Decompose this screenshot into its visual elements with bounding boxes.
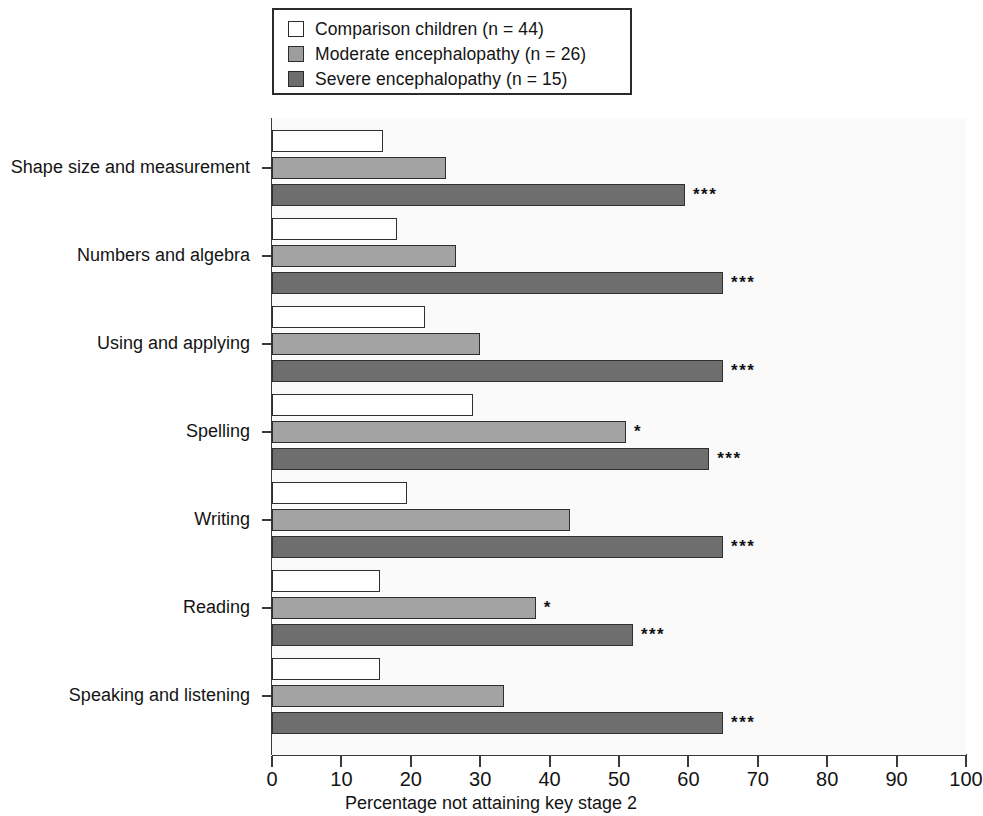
legend-swatch-comparison-icon bbox=[288, 21, 304, 37]
legend-label-comparison: Comparison children (n = 44) bbox=[315, 19, 544, 40]
bar bbox=[272, 157, 446, 179]
bar bbox=[272, 509, 570, 531]
y-axis-label: Speaking and listening bbox=[0, 685, 250, 706]
bar bbox=[272, 536, 723, 558]
x-axis-tick-label: 40 bbox=[538, 768, 560, 791]
significance-marker: *** bbox=[731, 360, 755, 382]
x-axis-title: Percentage not attaining key stage 2 bbox=[0, 793, 982, 814]
bar-group: *** bbox=[272, 306, 966, 382]
x-axis-tick-label: 80 bbox=[816, 768, 838, 791]
bar bbox=[272, 245, 456, 267]
x-axis-tick bbox=[410, 756, 412, 767]
significance-marker: *** bbox=[731, 272, 755, 294]
y-axis-label: Numbers and algebra bbox=[0, 245, 250, 266]
bar-group: *** bbox=[272, 658, 966, 734]
legend-swatch-moderate-icon bbox=[288, 46, 304, 62]
bar-group: *** bbox=[272, 482, 966, 558]
bar bbox=[272, 624, 633, 646]
bar-group: **** bbox=[272, 570, 966, 646]
x-axis-tick bbox=[687, 756, 689, 767]
y-axis-tick bbox=[262, 167, 272, 169]
x-axis-tick bbox=[757, 756, 759, 767]
x-axis-tick bbox=[826, 756, 828, 767]
legend-label-moderate: Moderate encephalopathy (n = 26) bbox=[315, 44, 586, 65]
x-axis-tick bbox=[965, 756, 967, 767]
bar bbox=[272, 272, 723, 294]
legend-item-comparison: Comparison children (n = 44) bbox=[288, 17, 630, 41]
y-axis-tick bbox=[262, 607, 272, 609]
x-axis-tick bbox=[549, 756, 551, 767]
y-axis-label: Shape size and measurement bbox=[0, 157, 250, 178]
significance-marker: *** bbox=[717, 448, 741, 470]
x-axis-tick-label: 0 bbox=[266, 768, 277, 791]
bar bbox=[272, 130, 383, 152]
bar bbox=[272, 570, 380, 592]
bar-group: *** bbox=[272, 130, 966, 206]
bar bbox=[272, 218, 397, 240]
significance-marker: *** bbox=[731, 536, 755, 558]
y-axis-tick bbox=[262, 255, 272, 257]
y-axis-tick bbox=[262, 519, 272, 521]
x-axis-tick-label: 50 bbox=[608, 768, 630, 791]
bar bbox=[272, 360, 723, 382]
significance-marker: *** bbox=[641, 624, 665, 646]
bar bbox=[272, 597, 536, 619]
bar bbox=[272, 306, 425, 328]
x-axis-tick bbox=[340, 756, 342, 767]
x-axis-tick bbox=[479, 756, 481, 767]
y-axis-label: Reading bbox=[0, 597, 250, 618]
x-axis-tick-label: 10 bbox=[330, 768, 352, 791]
x-axis-tick-label: 30 bbox=[469, 768, 491, 791]
x-axis-tick-label: 100 bbox=[949, 768, 982, 791]
y-axis-label: Writing bbox=[0, 509, 250, 530]
bar bbox=[272, 712, 723, 734]
x-axis-tick-label: 60 bbox=[677, 768, 699, 791]
bar bbox=[272, 685, 504, 707]
x-axis-tick-label: 90 bbox=[885, 768, 907, 791]
legend-item-moderate: Moderate encephalopathy (n = 26) bbox=[288, 42, 630, 66]
significance-marker: *** bbox=[731, 712, 755, 734]
bar bbox=[272, 482, 407, 504]
x-axis-tick bbox=[896, 756, 898, 767]
y-axis-tick bbox=[262, 695, 272, 697]
x-axis-tick bbox=[271, 756, 273, 767]
significance-marker: *** bbox=[693, 184, 717, 206]
bar-group: *** bbox=[272, 218, 966, 294]
bar-group: **** bbox=[272, 394, 966, 470]
significance-marker: * bbox=[634, 421, 642, 443]
y-axis-tick bbox=[262, 343, 272, 345]
bar bbox=[272, 394, 473, 416]
bar bbox=[272, 333, 480, 355]
x-axis-tick-label: 70 bbox=[747, 768, 769, 791]
y-axis-label: Spelling bbox=[0, 421, 250, 442]
legend-label-severe: Severe encephalopathy (n = 15) bbox=[315, 69, 568, 90]
significance-marker: * bbox=[544, 597, 552, 619]
x-axis-tick-label: 20 bbox=[400, 768, 422, 791]
chart-legend: Comparison children (n = 44) Moderate en… bbox=[272, 8, 632, 95]
bar bbox=[272, 658, 380, 680]
x-axis-tick bbox=[618, 756, 620, 767]
y-axis-tick bbox=[262, 431, 272, 433]
bar bbox=[272, 448, 709, 470]
y-axis-label: Using and applying bbox=[0, 333, 250, 354]
plot-area: *********************** bbox=[272, 118, 966, 755]
bar bbox=[272, 421, 626, 443]
bar bbox=[272, 184, 685, 206]
legend-item-severe: Severe encephalopathy (n = 15) bbox=[288, 67, 630, 91]
legend-swatch-severe-icon bbox=[288, 71, 304, 87]
